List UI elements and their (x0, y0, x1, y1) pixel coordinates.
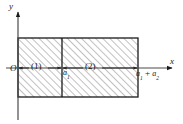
x-axis-label: x (170, 57, 174, 66)
region-1-label: (1) (31, 62, 42, 71)
y-axis-label: y (9, 2, 13, 11)
tick-a1a2-subscript2: 2 (156, 75, 159, 81)
tick-a1a2-subscript1: 1 (140, 75, 143, 81)
tick-a1-subscript: 1 (67, 74, 70, 80)
region-2-label: (2) (85, 62, 96, 71)
tick-label-a1: a1 (63, 69, 70, 79)
tick-a1a2-operator: + (143, 68, 153, 78)
tick-label-a1-plus-a2: a1 + a2 (136, 69, 159, 80)
origin-label: O (10, 64, 17, 73)
